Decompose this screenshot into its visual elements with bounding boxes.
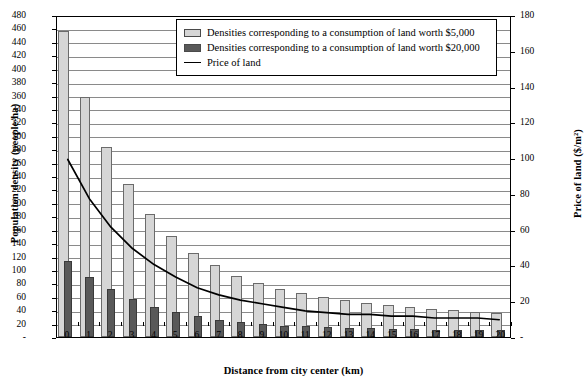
x-axis-tick-label: 7 (207, 330, 231, 340)
x-axis-tick-label: 8 (228, 330, 252, 340)
y-axis-right-tick-mark (511, 16, 515, 17)
legend-item: Densities corresponding to a consumption… (184, 25, 489, 40)
chart-legend: Densities corresponding to a consumption… (176, 19, 497, 76)
x-axis-tick-label: 15 (380, 330, 404, 340)
y-axis-right-tick-mark (511, 88, 515, 89)
y-axis-left-tick-label: 80 (0, 279, 26, 289)
y-axis-left-tick-label: 160 (0, 226, 26, 236)
x-axis-tick-label: 2 (98, 330, 122, 340)
x-axis-tick-mark (99, 322, 100, 326)
y-axis-left-tick-label: 300 (0, 132, 26, 142)
y-axis-left-tick-label: 260 (0, 159, 26, 169)
x-axis-tick-mark (359, 322, 360, 326)
x-axis-tick-label: 13 (337, 330, 361, 340)
legend-item: Price of land (184, 55, 489, 70)
y-axis-right-tick-mark (511, 231, 515, 232)
legend-item-label: Price of land (207, 57, 261, 68)
x-axis-tick-mark (121, 322, 122, 326)
x-axis-tick-label: 16 (402, 330, 426, 340)
y-axis-right-tick-mark (511, 195, 515, 196)
x-axis-tick-mark (186, 322, 187, 326)
y-axis-right-tick-label: 140 (520, 83, 560, 93)
y-axis-left-tick-label: 20 (0, 320, 26, 330)
x-axis-tick-mark (446, 322, 447, 326)
y-axis-right-tick-label: 40 (520, 261, 560, 271)
y-axis-left-tick-label: 480 (0, 11, 26, 21)
x-axis-tick-label: 20 (488, 330, 512, 340)
x-axis-tick-mark (164, 322, 165, 326)
x-axis-tick-label: 17 (423, 330, 447, 340)
y-axis-right-tick-label: 160 (520, 47, 560, 57)
y-axis-left-tick-label: 100 (0, 266, 26, 276)
x-axis-tick-mark (316, 322, 317, 326)
x-axis-tick-mark (229, 322, 230, 326)
y-axis-right-tick-label: 120 (520, 118, 560, 128)
legend-swatch-light-icon (184, 29, 201, 37)
y-axis-left-tick-label: 340 (0, 105, 26, 115)
x-axis-title: Distance from city center (km) (0, 365, 587, 376)
y-axis-left-tick-label: 220 (0, 185, 26, 195)
y-axis-left-tick-label: 60 (0, 293, 26, 303)
x-axis-tick-mark (468, 322, 469, 326)
x-axis-tick-label: 6 (185, 330, 209, 340)
y-axis-left-tick-label: 460 (0, 24, 26, 34)
legend-item: Densities corresponding to a consumption… (184, 40, 489, 55)
y-axis-left-tick-label: 420 (0, 51, 26, 61)
x-axis-tick-label: 19 (467, 330, 491, 340)
y-axis-left-tick-label: 240 (0, 172, 26, 182)
y-axis-right-tick-mark (511, 52, 515, 53)
x-axis-tick-label: 3 (120, 330, 144, 340)
x-axis-tick-label: 0 (55, 330, 79, 340)
x-axis-tick-label: 4 (142, 330, 166, 340)
y-axis-left-tick-label: 40 (0, 306, 26, 316)
x-axis-tick-label: 14 (358, 330, 382, 340)
x-axis-tick-mark (78, 322, 79, 326)
y-axis-left-tick-label: 440 (0, 38, 26, 48)
x-axis-tick-mark (294, 322, 295, 326)
y-axis-right-tick-label: - (520, 333, 560, 343)
x-axis-tick-mark (511, 322, 512, 326)
x-axis-tick-mark (143, 322, 144, 326)
x-axis-tick-label: 12 (315, 330, 339, 340)
x-axis-tick-label: 11 (293, 330, 317, 340)
y-axis-right-tick-label: 60 (520, 226, 560, 236)
y-axis-left-tick-label: - (0, 333, 26, 343)
y-axis-left-tick-label: 180 (0, 212, 26, 222)
y-axis-left-tick-label: 280 (0, 145, 26, 155)
legend-swatch-dark-icon (184, 44, 201, 52)
y-axis-right-tick-mark (511, 159, 515, 160)
y-axis-left-tick-label: 200 (0, 199, 26, 209)
y-axis-right-tick-label: 80 (520, 190, 560, 200)
y-axis-left-tick-label: 140 (0, 239, 26, 249)
x-axis-tick-mark (338, 322, 339, 326)
x-axis-tick-label: 5 (163, 330, 187, 340)
x-axis-tick-mark (424, 322, 425, 326)
y-axis-right-tick-mark (511, 123, 515, 124)
x-axis-tick-mark (273, 322, 274, 326)
legend-item-label: Densities corresponding to a consumption… (207, 27, 474, 38)
x-axis-tick-mark (251, 322, 252, 326)
legend-swatch-line-icon (184, 62, 201, 63)
x-axis-tick-mark (208, 322, 209, 326)
x-axis-tick-mark (381, 322, 382, 326)
x-axis-tick-mark (403, 322, 404, 326)
population-density-land-price-chart: Population density (people/ha) Price of … (0, 0, 587, 383)
y-axis-right-tick-mark (511, 302, 515, 303)
x-axis-tick-mark (489, 322, 490, 326)
x-axis-tick-label: 9 (250, 330, 274, 340)
y-axis-left-tick-label: 400 (0, 65, 26, 75)
y-axis-right-tick-label: 100 (520, 154, 560, 164)
y-axis-right-title: Price of land ($/m²) (572, 86, 583, 262)
y-axis-right-tick-label: 20 (520, 297, 560, 307)
y-axis-left-tick-label: 380 (0, 78, 26, 88)
legend-item-label: Densities corresponding to a consumption… (207, 42, 480, 53)
y-axis-left-tick-label: 360 (0, 92, 26, 102)
y-axis-right-tick-mark (511, 266, 515, 267)
y-axis-left-tick-label: 320 (0, 118, 26, 128)
y-axis-left-tick-label: 120 (0, 253, 26, 263)
x-axis-tick-label: 10 (272, 330, 296, 340)
x-axis-tick-mark (56, 322, 57, 326)
x-axis-tick-label: 18 (445, 330, 469, 340)
x-axis-tick-label: 1 (77, 330, 101, 340)
y-axis-right-tick-label: 180 (520, 11, 560, 21)
